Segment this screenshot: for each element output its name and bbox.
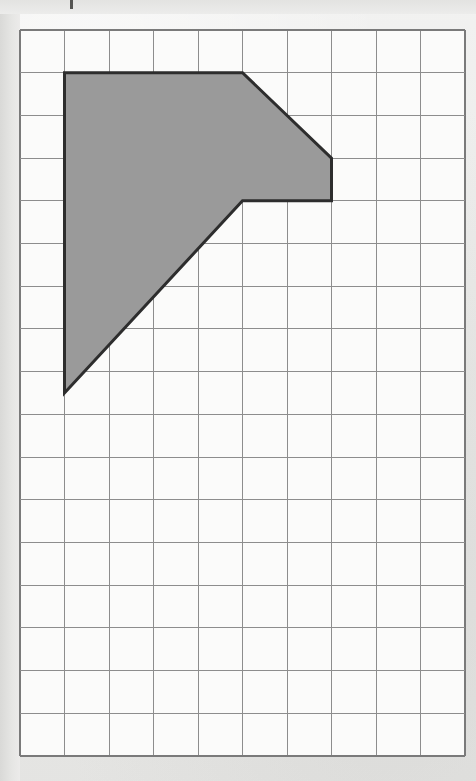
grid-figure <box>0 0 476 781</box>
